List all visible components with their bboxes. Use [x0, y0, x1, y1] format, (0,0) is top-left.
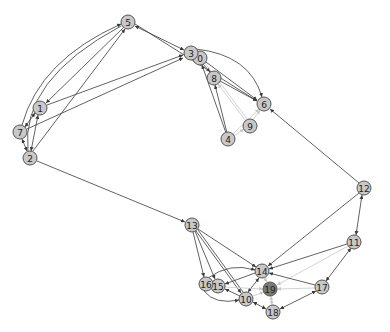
edge-10-15 — [225, 289, 240, 296]
node-label: 12 — [358, 184, 369, 194]
node-18: 18 — [266, 305, 280, 319]
node-label: 7 — [17, 128, 23, 138]
node-2: 2 — [23, 151, 37, 165]
edge-17-14 — [269, 273, 315, 285]
edge-7-2 — [22, 139, 27, 151]
node-10: 10 — [239, 292, 253, 306]
node-label: 2 — [27, 154, 33, 164]
network-graph: 012345678910111213141516171819 — [0, 0, 390, 332]
node-5: 5 — [121, 15, 135, 29]
node-label: 10 — [240, 295, 252, 305]
edge-11-14 — [269, 244, 347, 269]
edge-17-18 — [280, 291, 316, 309]
node-14: 14 — [255, 264, 269, 278]
node-label: 6 — [261, 100, 267, 110]
edge-14-15 — [225, 273, 255, 284]
edge-10-18 — [253, 302, 266, 309]
node-label: 17 — [316, 283, 327, 293]
edge-12-6 — [270, 109, 359, 183]
node-6: 6 — [257, 97, 271, 111]
edge-7-3 — [27, 58, 183, 129]
node-label: 13 — [186, 221, 197, 231]
node-1: 1 — [33, 101, 47, 115]
node-label: 15 — [212, 282, 223, 292]
nodes: 012345678910111213141516171819 — [13, 15, 371, 319]
node-11: 11 — [347, 235, 361, 249]
node-13: 13 — [185, 218, 199, 232]
edge-5-3 — [135, 26, 184, 50]
node-label: 16 — [200, 280, 212, 290]
edges — [22, 24, 362, 309]
node-8: 8 — [207, 71, 221, 85]
edge-14-19 — [264, 278, 267, 282]
edge-9-8 — [218, 84, 246, 121]
edge-11-17 — [326, 248, 351, 281]
node-9: 9 — [243, 119, 257, 133]
node-label: 9 — [247, 122, 253, 132]
node-label: 8 — [211, 74, 217, 84]
node-16: 16 — [199, 277, 213, 291]
node-7: 7 — [13, 125, 27, 139]
edge-7-1 — [25, 113, 35, 127]
edge-4-8 — [215, 85, 227, 133]
node-17: 17 — [315, 280, 329, 294]
node-label: 14 — [256, 267, 268, 277]
edge-17-19 — [277, 288, 315, 289]
edge-8-6 — [220, 81, 257, 101]
edge-19-18 — [271, 296, 272, 305]
edge-2-5b — [27, 26, 121, 151]
node-label: 19 — [264, 285, 276, 295]
edge-2-13 — [37, 161, 185, 222]
edge-13-14 — [198, 229, 256, 267]
edge-10-14 — [248, 278, 259, 292]
edge-4-9 — [234, 129, 244, 136]
node-12: 12 — [357, 181, 371, 195]
edge-12-11 — [356, 195, 362, 235]
node-19: 19 — [263, 282, 277, 296]
edge-15-19 — [225, 287, 263, 289]
node-label: 5 — [125, 18, 131, 28]
edge-10-19 — [253, 292, 264, 296]
node-label: 4 — [225, 135, 231, 145]
node-4: 4 — [221, 132, 235, 146]
node-label: 3 — [188, 49, 194, 59]
node-label: 18 — [267, 308, 279, 318]
node-label: 11 — [348, 238, 359, 248]
node-3: 3 — [184, 46, 198, 60]
node-label: 1 — [37, 104, 43, 114]
